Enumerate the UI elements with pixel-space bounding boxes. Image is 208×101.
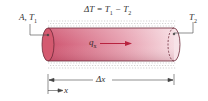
heat-flow-label: qx [89, 38, 97, 49]
cylinder [42, 28, 180, 61]
insulation-top [48, 21, 176, 26]
axis-label: x [64, 86, 68, 95]
area-temp-left-label: A, T1 [19, 13, 37, 24]
insulation-bottom [48, 63, 176, 68]
x-axis-arrow [48, 85, 63, 94]
delta-t-equation: ΔT = T1 − T2 [84, 5, 131, 16]
length-label: Δx [96, 75, 105, 84]
length-dimension [48, 74, 174, 85]
temp-right-label: T2 [189, 13, 197, 24]
